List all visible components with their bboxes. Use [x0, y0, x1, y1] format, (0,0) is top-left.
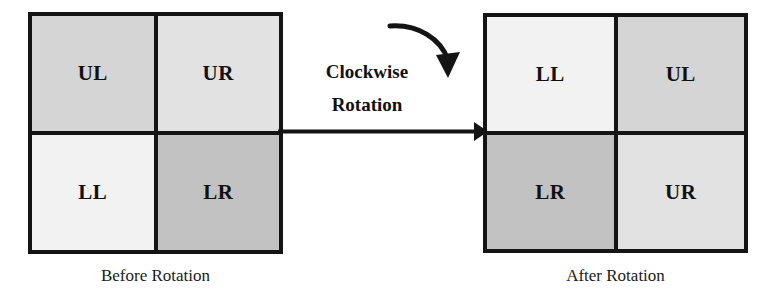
before-cell-upper-left: UL — [32, 16, 156, 133]
after-cell-upper-right: UL — [616, 17, 745, 133]
after-cell-upper-left: LL — [487, 17, 616, 133]
before-cell-lower-left: LL — [32, 133, 156, 250]
after-cell-lower-left: LR — [487, 133, 616, 249]
cell-label: LL — [536, 62, 565, 87]
cell-label: LR — [535, 180, 565, 205]
after-cell-lower-right: UR — [616, 133, 745, 249]
right-arrow-icon — [278, 112, 488, 152]
cell-label: LR — [203, 180, 233, 205]
rotation-diagram: UL UR LL LR Before Rotation LL UL LR UR … — [0, 0, 777, 305]
after-rotation-caption: After Rotation — [483, 266, 748, 286]
before-rotation-grid: UL UR LL LR — [28, 12, 283, 254]
before-rotation-caption: Before Rotation — [28, 266, 283, 286]
cell-label: UL — [666, 62, 696, 87]
cell-label: UR — [203, 61, 234, 86]
clockwise-curved-arrow-icon — [378, 14, 474, 88]
cell-label: UL — [78, 61, 108, 86]
cell-label: LL — [78, 180, 107, 205]
before-cell-lower-right: LR — [156, 133, 280, 250]
before-cell-upper-right: UR — [156, 16, 280, 133]
cell-label: UR — [665, 180, 696, 205]
after-rotation-grid: LL UL LR UR — [483, 13, 748, 253]
